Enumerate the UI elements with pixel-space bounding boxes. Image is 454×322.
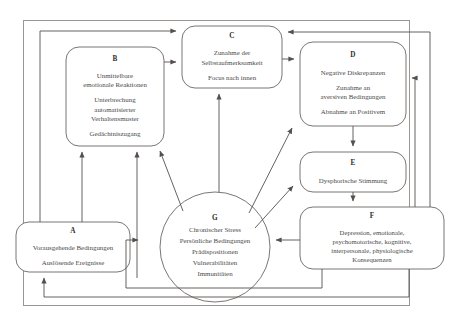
node-b-shape (66, 47, 164, 146)
node-d-shape (300, 42, 406, 126)
node-e-shape (300, 152, 406, 192)
node-g-shape (160, 192, 270, 302)
edge-g-to-d (249, 128, 292, 213)
node-a-shape (16, 222, 130, 272)
edge-g-to-e (255, 186, 293, 228)
node-f-shape (300, 207, 444, 269)
diagram-graphics (0, 0, 454, 322)
edge-g-to-b (160, 151, 183, 211)
node-c-shape (182, 26, 282, 88)
edge-f-to-d (412, 78, 415, 207)
diagram-canvas: A Vorausgehende Bedingungen Auslösende E… (0, 0, 454, 322)
